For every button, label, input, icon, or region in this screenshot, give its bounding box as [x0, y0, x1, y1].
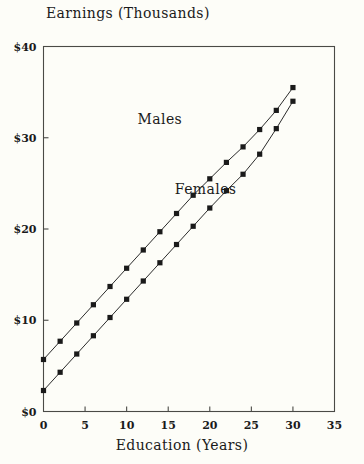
data-point-marker [290, 85, 295, 90]
series-label-females: Females [175, 181, 237, 197]
chart-plot-area: 05101520253035 $0$10$20$30$40 MalesFemal… [0, 0, 364, 464]
data-point-marker [141, 247, 146, 252]
data-point-marker [191, 224, 196, 229]
y-tick-label: $30 [14, 132, 37, 145]
data-point-marker [107, 315, 112, 320]
chart-container: Earnings (Thousands) 05101520253035 $0$1… [0, 0, 364, 464]
x-tick-label: 10 [119, 419, 135, 432]
data-point-marker [124, 266, 129, 271]
data-point-marker [141, 278, 146, 283]
data-point-marker [124, 297, 129, 302]
x-tick-label: 25 [244, 419, 259, 432]
data-point-marker [74, 351, 79, 356]
x-tick-label: 20 [202, 419, 218, 432]
data-point-marker [224, 160, 229, 165]
data-point-marker [157, 229, 162, 234]
data-point-marker [257, 152, 262, 157]
data-point-marker [74, 320, 79, 325]
data-point-marker [274, 108, 279, 113]
data-point-marker [174, 242, 179, 247]
data-point-marker [58, 339, 63, 344]
data-point-marker [107, 284, 112, 289]
x-axis-ticks: 05101520253035 [40, 407, 342, 432]
x-tick-label: 15 [161, 419, 176, 432]
x-tick-label: 35 [327, 419, 342, 432]
data-point-marker [257, 127, 262, 132]
series-line-males [44, 88, 293, 360]
x-axis-label: Education (Years) [0, 437, 364, 453]
data-point-marker [41, 357, 46, 362]
data-point-marker [174, 211, 179, 216]
y-tick-label: $10 [14, 314, 37, 327]
data-point-marker [91, 302, 96, 307]
x-tick-label: 5 [81, 419, 89, 432]
series-line-females [44, 101, 293, 390]
data-point-marker [91, 333, 96, 338]
y-tick-label: $0 [21, 406, 37, 419]
data-point-marker [240, 144, 245, 149]
data-series-group [41, 85, 296, 393]
data-point-marker [290, 99, 295, 104]
data-point-marker [274, 126, 279, 131]
data-point-marker [58, 370, 63, 375]
data-point-marker [207, 205, 212, 210]
series-inline-labels: MalesFemales [138, 111, 237, 197]
data-point-marker [157, 260, 162, 265]
x-tick-label: 30 [285, 419, 301, 432]
y-tick-label: $40 [14, 41, 37, 54]
series-label-males: Males [138, 111, 183, 127]
data-point-marker [41, 388, 46, 393]
y-tick-label: $20 [14, 223, 37, 236]
x-tick-label: 0 [40, 419, 48, 432]
data-point-marker [240, 172, 245, 177]
